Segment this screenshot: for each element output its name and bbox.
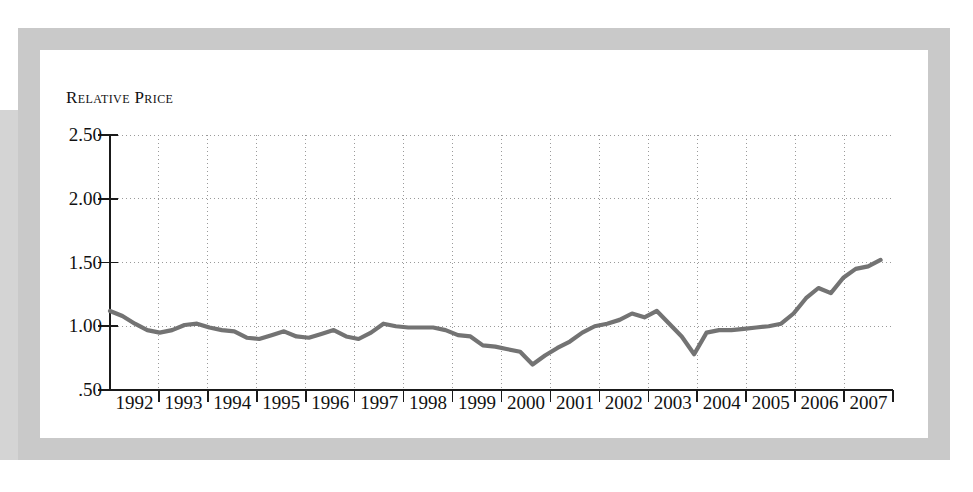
x-axis-tick-label: 2000 (507, 392, 545, 414)
x-axis-tick-label: 1993 (164, 392, 202, 414)
x-axis-tick-label: 1997 (360, 392, 398, 414)
y-axis-tick-label: 1.50 (44, 252, 102, 274)
chart-canvas: Relative Price 2.502.001.501.00.50 19921… (0, 0, 973, 492)
x-axis-tick-label: 1995 (262, 392, 300, 414)
y-axis-tick-labels: 2.502.001.501.00.50 (44, 0, 102, 492)
x-axis-tick-label: 2002 (605, 392, 643, 414)
x-axis-tick-label: 1992 (115, 392, 153, 414)
x-axis-tick-label: 1998 (409, 392, 447, 414)
line-chart-plot (0, 0, 973, 492)
data-series-line (110, 260, 881, 365)
y-axis-tick-label: 2.00 (44, 188, 102, 210)
x-axis-tick-label: 2005 (752, 392, 790, 414)
x-axis-tick-label: 2006 (801, 392, 839, 414)
x-axis-tick-label: 2007 (850, 392, 888, 414)
x-axis-tick-label: 1994 (213, 392, 251, 414)
x-axis-tick-label: 1999 (458, 392, 496, 414)
x-axis-tick-label: 2001 (556, 392, 594, 414)
y-axis-tick-label: 1.00 (44, 315, 102, 337)
y-axis-tick-label: 2.50 (44, 124, 102, 146)
x-axis-tick-label: 2003 (654, 392, 692, 414)
x-axis-tick-label: 2004 (703, 392, 741, 414)
figure-root: Relative Price 2.502.001.501.00.50 19921… (0, 0, 973, 492)
y-axis-tick-label: .50 (44, 379, 102, 401)
x-axis-tick-label: 1996 (311, 392, 349, 414)
